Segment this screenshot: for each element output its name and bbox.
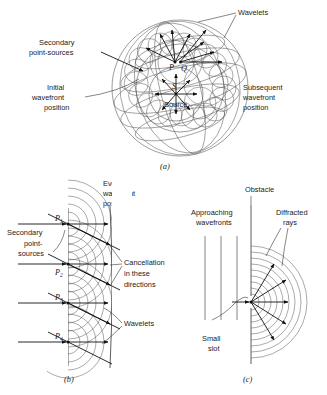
label-wavelets-b: Wavelets [124, 319, 154, 328]
panel-c: Obstacle Approaching wavefronts Diffract… [191, 185, 308, 384]
label-initial-wavefront-a-line3: position [44, 103, 69, 112]
leader-diffracted-rays [266, 228, 288, 266]
label-secondary-point-sources-a-line2: point-sources [29, 48, 74, 57]
label-point-p: P [168, 63, 174, 72]
panel-b: Initial wavefront position Eventual wave… [0, 176, 165, 384]
sphere-latitude-lines [109, 13, 251, 162]
point-marker-p1 [66, 222, 69, 225]
label-subsequent-wavefront-line1: Subsequent [243, 83, 282, 92]
label-cancellation-line1: Cancellation [124, 258, 165, 267]
label-secondary-point-sources-b-line2: point- [24, 239, 43, 248]
panel-label-c: (c) [243, 375, 253, 384]
label-small-slot-line1: Small [202, 334, 221, 343]
label-subsequent-wavefront-line3: position [243, 103, 268, 112]
label-point-s: S [172, 82, 176, 91]
wavelet-arrows-pq [146, 30, 222, 62]
label-diffracted-rays-line1: Diffracted [276, 208, 308, 217]
label-initial-wavefront-a-line1: Initial [47, 83, 65, 92]
label-cancellation-line2: in these [124, 269, 150, 278]
label-wavelets-a: Wavelets [238, 8, 268, 17]
label-small-slot-line2: slot [208, 344, 220, 353]
point-marker-s [175, 93, 178, 96]
label-diffracted-rays-line2: rays [283, 218, 297, 227]
label-subsequent-wavefront-line2: wavefront [242, 93, 275, 102]
panel-a: P Q S Source Wavelets Secondary point-so… [29, 8, 282, 171]
diffracted-rays [251, 264, 288, 340]
label-source: Source [164, 100, 187, 109]
panel-label-a: (a) [160, 162, 170, 171]
label-approaching-wavefronts-line1: Approaching [191, 208, 233, 217]
label-obstacle: Obstacle [245, 185, 274, 194]
approaching-wavefront-lines [205, 236, 237, 320]
point-marker-p2 [66, 262, 69, 265]
label-initial-wavefront-a-line2: wavefront [31, 93, 64, 102]
label-secondary-point-sources-b-line1: Secondary [7, 228, 43, 237]
label-point-q: Q [181, 64, 187, 73]
leader-wavelets-a [198, 13, 236, 38]
label-secondary-point-sources-a-line1: Secondary [39, 38, 75, 47]
slot-point-marker [249, 300, 252, 303]
point-marker-p4 [66, 340, 69, 343]
initial-wavefront-circle [136, 44, 224, 132]
label-approaching-wavefronts-line2: wavefronts [195, 218, 232, 227]
point-marker-p3 [66, 301, 69, 304]
panel-label-b: (b) [64, 375, 74, 384]
huygens-principle-figure: P Q S Source Wavelets Secondary point-so… [0, 0, 327, 395]
label-secondary-point-sources-b-line3: sources [18, 249, 44, 258]
leader-small-slot-curve [212, 297, 248, 320]
label-cancellation-line3: directions [124, 280, 156, 289]
